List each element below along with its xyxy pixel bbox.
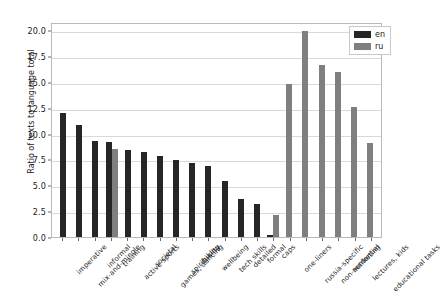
bar-group [103, 24, 119, 237]
bar-en [238, 199, 244, 237]
x-tick-mark [371, 238, 372, 241]
bar-en [222, 181, 228, 237]
bar-ru [112, 149, 118, 237]
bar-en [254, 204, 260, 237]
bar-group [120, 24, 136, 237]
legend-swatch-ru [354, 43, 371, 50]
x-tick-mark [160, 238, 161, 241]
bar-group [281, 24, 297, 237]
x-tick-mark [208, 238, 209, 241]
x-tick-label: societal [154, 243, 179, 268]
x-tick-mark [322, 238, 323, 241]
x-tick-mark [95, 238, 96, 241]
bar-en [157, 156, 163, 237]
bar-group-container [52, 24, 381, 237]
bar-en [173, 160, 179, 237]
y-axis: 0.02.55.07.510.012.515.017.520.0 [0, 23, 51, 238]
bar-en [189, 163, 195, 237]
bar-ru [302, 31, 308, 237]
x-tick-mark [355, 238, 356, 241]
bar-group [314, 24, 330, 237]
x-tick-mark [338, 238, 339, 241]
x-tick-label: imperative [75, 243, 108, 276]
bar-group [184, 24, 200, 237]
x-tick-mark [225, 238, 226, 241]
bar-group [136, 24, 152, 237]
y-tick-label: 0.0 [33, 234, 46, 243]
bar-group [200, 24, 216, 237]
bar-group [265, 24, 281, 237]
x-tick-mark [192, 238, 193, 241]
x-tick-mark [127, 238, 128, 241]
bar-group [152, 24, 168, 237]
x-tick-mark [78, 238, 79, 241]
x-tick-mark [257, 238, 258, 241]
legend-swatch-en [354, 31, 371, 38]
x-tick-mark [111, 238, 112, 241]
bar-en [205, 166, 211, 237]
bar-en [92, 141, 98, 237]
legend-label-ru: ru [375, 42, 383, 51]
x-tick-mark [62, 238, 63, 241]
bar-group [346, 24, 362, 237]
bar-group [297, 24, 313, 237]
bar-ru [335, 72, 341, 237]
legend-label-en: en [375, 30, 385, 39]
x-axis: imperativemix-and-mingleinformaltraining… [51, 238, 382, 305]
bar-en [141, 152, 147, 237]
bar-ru [351, 107, 357, 237]
bar-group [330, 24, 346, 237]
legend: en ru [349, 26, 391, 55]
bar-ru [319, 65, 325, 237]
bar-en [125, 150, 131, 237]
bar-group [71, 24, 87, 237]
bar-group [217, 24, 233, 237]
bar-en [60, 113, 66, 237]
bar-group [55, 24, 71, 237]
legend-item-ru: ru [354, 42, 385, 51]
x-tick-mark [290, 238, 291, 241]
bar-en [76, 125, 82, 237]
bar-ru [273, 215, 279, 237]
bar-group [87, 24, 103, 237]
x-tick-mark [273, 238, 274, 241]
x-tick-mark [306, 238, 307, 241]
plot-area [51, 23, 382, 238]
x-tick-mark [176, 238, 177, 241]
bar-group [249, 24, 265, 237]
y-axis-label: Ratio of texts to language total [27, 12, 36, 212]
legend-item-en: en [354, 30, 385, 39]
bar-ru [286, 84, 292, 237]
x-tick-label: one-liners [302, 243, 333, 274]
bar-ru [367, 143, 373, 237]
x-tick-mark [241, 238, 242, 241]
bar-group [233, 24, 249, 237]
bar-group [362, 24, 378, 237]
bar-group [168, 24, 184, 237]
x-tick-mark [143, 238, 144, 241]
